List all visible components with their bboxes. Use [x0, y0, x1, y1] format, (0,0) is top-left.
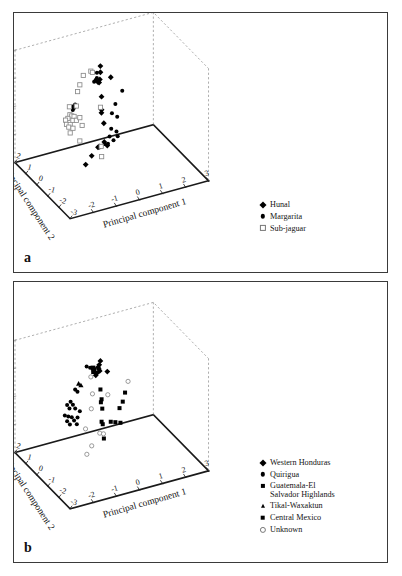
legend-a: HunalMargaritaSub-jaguar [257, 200, 306, 236]
data-point [116, 134, 120, 138]
svg-text:-2: -2 [87, 200, 96, 210]
data-point [67, 105, 71, 109]
y-axis-label: Principal component 2 [14, 454, 57, 532]
data-point [67, 125, 71, 129]
svg-text:-1: -1 [110, 193, 119, 203]
data-point [121, 400, 125, 404]
legend-item-margarita: Margarita [257, 212, 306, 222]
circle-marker-icon [257, 470, 268, 479]
legend-item-western-honduras: Western Honduras [257, 458, 344, 468]
svg-text:2: 2 [181, 175, 187, 185]
data-point [71, 126, 75, 130]
data-point [113, 420, 117, 424]
data-point [76, 416, 80, 420]
svg-text:-3: -3 [69, 497, 78, 507]
data-point [106, 393, 110, 397]
data-point [83, 162, 89, 168]
legend-label: Quirigua [270, 470, 299, 480]
data-point [85, 365, 89, 369]
data-point [72, 419, 76, 423]
circle-marker-icon [257, 212, 268, 221]
svg-text:0: 0 [134, 187, 140, 197]
data-point [106, 142, 110, 146]
data-point [65, 403, 69, 407]
data-point [110, 111, 114, 115]
series-unknown [83, 375, 130, 457]
data-point [80, 123, 84, 127]
data-point [90, 70, 94, 74]
panel-letter-b: b [24, 540, 32, 556]
data-point [68, 422, 72, 426]
data-point [123, 391, 127, 395]
data-points [63, 358, 130, 456]
data-point [74, 104, 78, 108]
data-point [63, 413, 67, 417]
legend-label: Western Honduras [270, 458, 331, 468]
legend-item-quirigua: Quirigua [257, 470, 344, 480]
svg-text:1: 1 [158, 471, 164, 481]
data-point [81, 73, 85, 77]
data-point [99, 400, 103, 404]
data-point [98, 105, 102, 109]
data-point [98, 387, 102, 391]
data-point [92, 80, 96, 84]
legend-label: Guatemala-El Salvador Highlands [270, 482, 344, 500]
svg-text:-1: -1 [110, 483, 119, 493]
figure-page: -2-1012-2-10123210-1-2-3Principal compon… [0, 0, 402, 576]
svg-text:0: 0 [38, 464, 44, 474]
data-point [118, 406, 122, 410]
data-point [78, 116, 82, 120]
data-point [101, 432, 105, 436]
data-point [126, 379, 130, 383]
legend-label: Margarita [270, 212, 302, 222]
data-point [85, 452, 89, 456]
y-axis-label: Principal component 2 [14, 164, 57, 242]
open-circle-marker-icon [257, 525, 268, 534]
data-point [89, 375, 93, 379]
data-point [120, 89, 124, 93]
legend-item-sub-jaguar: Sub-jaguar [257, 224, 306, 234]
series-tikal-waxaktun [76, 381, 84, 387]
open-square-marker-icon [257, 224, 268, 233]
data-point [97, 63, 103, 69]
data-point [70, 415, 74, 419]
data-point [101, 422, 105, 426]
svg-text:0: 0 [134, 477, 140, 487]
data-point [104, 369, 110, 375]
data-point [78, 139, 82, 143]
square-sm-marker-icon [257, 482, 268, 491]
diamond-marker-icon [257, 200, 268, 209]
data-point [68, 131, 72, 135]
data-point [65, 419, 69, 423]
legend-label: Tikal-Waxaktun [270, 501, 323, 511]
panel-letter-a: a [24, 250, 31, 266]
legend-item-tikal-waxaktun: Tikal-Waxaktun [257, 501, 344, 511]
svg-text:-2: -2 [58, 196, 67, 206]
legend-item-hunal: Hunal [257, 200, 306, 210]
svg-text:-2: -2 [58, 486, 67, 496]
svg-text:1: 1 [158, 181, 164, 191]
data-point [73, 406, 77, 410]
legend-item-unknown: Unknown [257, 525, 344, 535]
data-point [75, 390, 79, 394]
svg-text:0: 0 [38, 174, 44, 184]
legend-label: Hunal [270, 200, 290, 210]
panel-b: -2-1012-2-10123210-1-2-3Principal compon… [13, 281, 388, 563]
data-point [115, 115, 119, 119]
legend-label: Sub-jaguar [270, 224, 306, 234]
data-point [90, 392, 94, 396]
data-point [89, 153, 95, 159]
data-point [118, 421, 122, 425]
data-point [95, 71, 99, 75]
legend-label: Unknown [270, 525, 302, 535]
svg-text:-1: -1 [47, 184, 56, 194]
legend-b: Western HondurasQuiriguaGuatemala-El Sal… [257, 458, 344, 537]
svg-text:2: 2 [16, 151, 22, 161]
svg-text:2: 2 [181, 465, 187, 475]
svg-text:-2: -2 [87, 490, 96, 500]
legend-label: Central Mexico [270, 513, 321, 523]
data-point [108, 74, 114, 80]
data-point [63, 118, 67, 122]
svg-text:1: 1 [27, 452, 33, 462]
square-marker-icon [257, 513, 268, 522]
